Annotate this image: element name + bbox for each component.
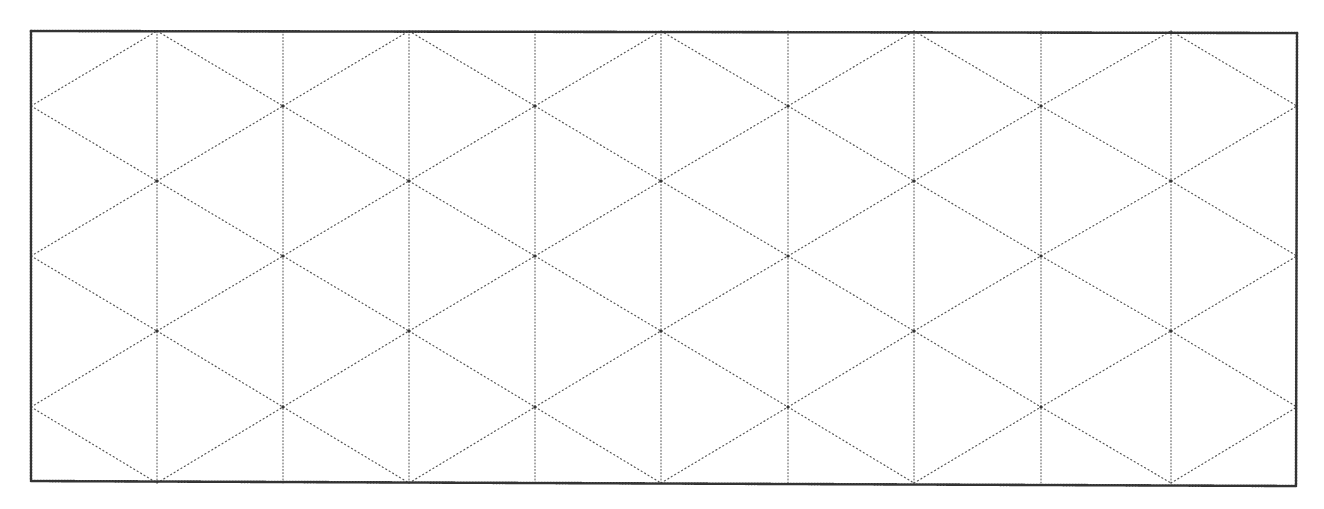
grid-border-bottom (31, 481, 1296, 486)
grid-vertex-dot (407, 329, 410, 332)
grid-vertex-dot (533, 254, 536, 257)
grid-border-top (31, 31, 1297, 33)
grid-diagonal-line (31, 106, 157, 181)
grid-vertex-dot (281, 254, 284, 257)
grid-vertex-dot (155, 329, 158, 332)
grid-diagonal-line (535, 31, 661, 106)
grid-diagonal-line (788, 31, 914, 106)
grid-diagonal-line (283, 181, 409, 256)
grid-diagonal-line (157, 256, 283, 331)
grid-vertex-dot (786, 405, 789, 408)
grid-diagonal-line (1041, 181, 1171, 256)
grid-diagonal-line (157, 331, 283, 407)
grid-diagonal-line (157, 181, 283, 256)
grid-diagonal-line (914, 256, 1041, 331)
grid-vertex-dot (912, 179, 915, 182)
grid-diagonal-line (283, 106, 409, 181)
grid-diagonal-line (1171, 106, 1297, 181)
grid-diagonal-line (914, 407, 1041, 483)
grid-diagonal-line (535, 106, 661, 181)
grid-vertex-dot (1039, 254, 1042, 257)
grid-diagonal-line (1041, 256, 1171, 331)
isometric-grid (0, 0, 1324, 509)
grid-diagonal-line (914, 106, 1041, 181)
grid-diagonal-line (535, 331, 661, 407)
grid-diagonal-line (157, 407, 283, 483)
grid-vertex-dot (1039, 405, 1042, 408)
grid-diagonal-line (1041, 407, 1171, 483)
grid-diagonal-line (31, 256, 157, 331)
grid-diagonal-line (788, 407, 914, 483)
grid-diagonal-line (914, 331, 1041, 407)
grid-vertex-dot (659, 329, 662, 332)
grid-diagonal-line (157, 31, 283, 106)
grid-vertex-dot (155, 179, 158, 182)
grid-diagonal-line (661, 256, 788, 331)
grid-diagonal-line (31, 31, 157, 106)
grid-diagonal-line (535, 256, 661, 331)
grid-vertex-dot (786, 104, 789, 107)
grid-diagonal-line (914, 31, 1041, 106)
grid-diagonal-line (283, 331, 409, 407)
grid-diagonal-line (31, 407, 157, 483)
grid-diagonal-line (788, 181, 914, 256)
grid-diagonal-line (409, 106, 535, 181)
grid-vertex-dot (533, 104, 536, 107)
grid-diagonal-line (1171, 256, 1297, 331)
grid-diagonal-line (409, 331, 535, 407)
grid-diagonal-line (788, 256, 914, 331)
grid-diagonal-line (1171, 181, 1297, 256)
grid-vertex-dot (1039, 104, 1042, 107)
grid-diagonal-line (409, 31, 535, 106)
grid-diagonal-line (409, 407, 535, 483)
grid-vertex-dot (659, 179, 662, 182)
grid-vertex-dot (1169, 179, 1172, 182)
grid-diagonal-line (1171, 407, 1297, 483)
grid-diagonal-line (661, 106, 788, 181)
grid-diagonal-line (31, 181, 157, 256)
grid-diagonal-line (1041, 106, 1171, 181)
grid-diagonal-line (1171, 31, 1297, 106)
grid-vertex-dot (281, 405, 284, 408)
grid-diagonal-line (31, 331, 157, 407)
grid-diagonal-line (409, 181, 535, 256)
grid-border-right (1296, 33, 1297, 486)
grid-vertex-dot (912, 329, 915, 332)
grid-diagonal-line (1041, 331, 1171, 407)
grid-diagonal-line (1171, 331, 1297, 407)
grid-diagonal-line (661, 31, 788, 106)
grid-vertex-dot (407, 179, 410, 182)
grid-diagonal-line (535, 181, 661, 256)
grid-diagonal-line (283, 31, 409, 106)
grid-diagonal-line (661, 181, 788, 256)
grid-vertex-dot (281, 104, 284, 107)
grid-diagonal-line (283, 256, 409, 331)
grid-vertex-dot (533, 405, 536, 408)
grid-diagonal-line (409, 256, 535, 331)
grid-vertex-dot (1169, 329, 1172, 332)
grid-diagonal-line (1041, 31, 1171, 106)
grid-diagonal-line (661, 331, 788, 407)
grid-diagonal-line (788, 331, 914, 407)
grid-vertex-dot (786, 254, 789, 257)
grid-diagonal-line (535, 407, 661, 483)
grid-diagonal-line (661, 407, 788, 483)
grid-diagonal-line (914, 181, 1041, 256)
grid-diagonal-line (283, 407, 409, 483)
grid-diagonal-line (788, 106, 914, 181)
grid-diagonal-line (157, 106, 283, 181)
